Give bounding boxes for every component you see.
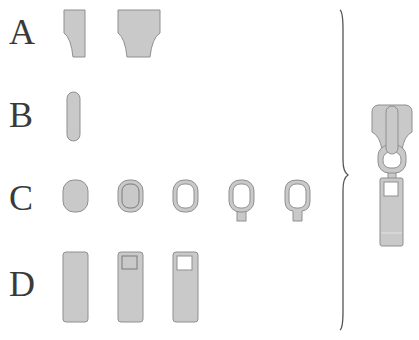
pull-tab-solid-icon [63,252,88,322]
row-a-shapes [64,10,160,57]
row-c-shapes [63,180,310,221]
diagram-canvas: .f { fill: #c9c9c9; stroke: #8f8f8f; str… [0,0,419,340]
brace-icon [340,10,348,330]
slider-body-half-icon [64,10,85,57]
ring-open-icon [173,180,198,212]
assembled-zipper-icon [372,105,412,246]
ring-inset-icon [118,180,143,212]
row-d-shapes [63,252,198,322]
pull-tab-inset-icon [118,252,143,322]
ring-with-tab-icon [229,180,254,221]
row-b-shapes [67,92,80,141]
slider-bridge-icon [67,92,80,141]
ring-with-neck-icon [285,180,310,221]
slider-body-full-icon [118,10,160,57]
ring-solid-icon [63,180,88,212]
pull-tab-window-icon [173,252,198,322]
